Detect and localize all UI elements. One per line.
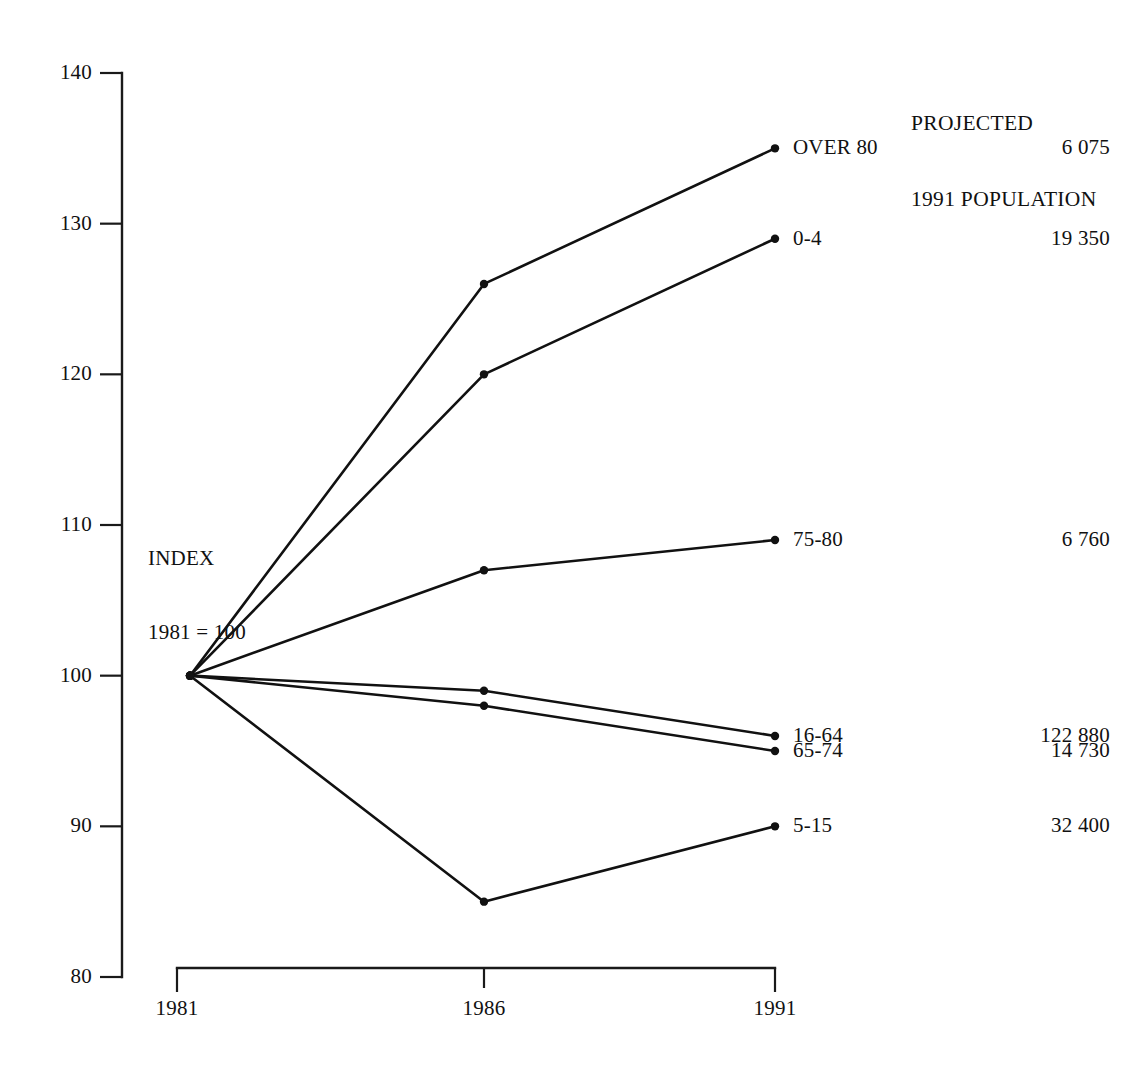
data-point-16-64-1986 — [480, 687, 488, 695]
xtick-label-1986: 1986 — [439, 998, 529, 1019]
series-label-0-4: 0-4 — [793, 228, 822, 249]
ytick-label-90: 90 — [32, 815, 92, 836]
population-value-over-80: 6 075 — [990, 137, 1110, 158]
population-value-65-74: 14 730 — [990, 740, 1110, 761]
ytick-label-80: 80 — [32, 966, 92, 987]
population-value-0-4: 19 350 — [990, 228, 1110, 249]
series-label-75-80: 75-80 — [793, 529, 843, 550]
ytick-label-100: 100 — [32, 665, 92, 686]
data-point-0-4-1986 — [480, 370, 488, 378]
chart-page: 140 130 120 110 100 90 80 1981 1986 1991… — [0, 0, 1128, 1073]
data-point-over-80-1986 — [480, 280, 488, 288]
data-point-65-74-1986 — [480, 702, 488, 710]
data-point-16-64-1991 — [771, 732, 779, 740]
ytick-label-130: 130 — [32, 213, 92, 234]
ytick-label-140: 140 — [32, 62, 92, 83]
xtick-label-1991: 1991 — [730, 998, 820, 1019]
series-label-5-15: 5-15 — [793, 815, 832, 836]
data-point-75-80-1986 — [480, 566, 488, 574]
index-annotation-line2: 1981 = 100 — [148, 620, 246, 645]
data-point-5-15-1991 — [771, 822, 779, 830]
series-line-over-80 — [190, 148, 775, 675]
index-annotation-line1: INDEX — [148, 546, 246, 571]
xtick-label-1981: 1981 — [132, 998, 222, 1019]
projected-population-header-line2: 1991 POPULATION — [911, 187, 1096, 212]
data-point-75-80-1991 — [771, 536, 779, 544]
ytick-label-120: 120 — [32, 363, 92, 384]
data-point-5-15-1986 — [480, 897, 488, 905]
ytick-label-110: 110 — [32, 514, 92, 535]
projected-population-header-line1: PROJECTED — [911, 111, 1096, 136]
data-point-0-4-1991 — [771, 235, 779, 243]
population-value-5-15: 32 400 — [990, 815, 1110, 836]
population-value-75-80: 6 760 — [990, 529, 1110, 550]
series-label-65-74: 65-74 — [793, 740, 843, 761]
data-point-65-74-1991 — [771, 747, 779, 755]
index-annotation: INDEX 1981 = 100 — [148, 496, 246, 694]
series-line-0-4 — [190, 239, 775, 676]
series-group — [186, 144, 779, 906]
series-label-over-80: OVER 80 — [793, 137, 878, 158]
data-point-over-80-1991 — [771, 144, 779, 152]
